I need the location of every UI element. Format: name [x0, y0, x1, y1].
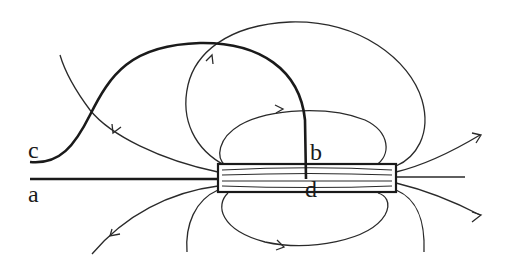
arrow-icon [206, 55, 213, 64]
arrow-icon [472, 133, 481, 143]
arrow-icon [110, 229, 120, 236]
field-line-left-lower [92, 186, 218, 254]
magnet-field-diagram: c a b d [0, 0, 508, 276]
wire-c-to-b [30, 43, 306, 179]
label-a: a [28, 181, 39, 207]
label-c: c [28, 137, 39, 163]
label-b: b [310, 139, 322, 165]
field-line-outer-bottom-right [396, 190, 424, 252]
field-line-right-upper [396, 135, 480, 172]
field-line-outer-bottom-left [187, 190, 218, 252]
arrow-icon [112, 124, 121, 133]
arrow-icon [472, 212, 481, 222]
field-line-left-upper [60, 55, 218, 172]
field-line-inner-top [220, 111, 386, 166]
field-line-right-lower [396, 183, 480, 215]
label-d: d [305, 176, 317, 202]
